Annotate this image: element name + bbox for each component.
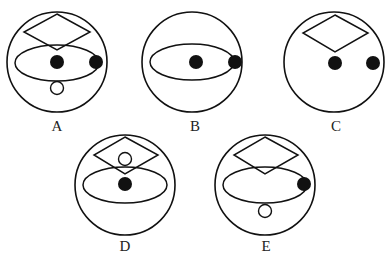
filled-dot-e-0 [297,177,311,191]
diamond-e [234,137,298,174]
hollow-dot-a-0 [51,82,64,95]
filled-dot-c-1 [366,56,380,70]
hollow-dot-e-0 [259,205,272,218]
filled-dot-a-0 [50,55,64,69]
ellipse-e [223,167,307,203]
label-e: E [261,238,270,255]
filled-dot-d-0 [118,177,132,191]
filled-dot-b-1 [228,55,242,69]
hollow-dot-d-0 [119,153,132,166]
filled-dot-a-1 [89,55,103,69]
label-d: D [120,238,131,255]
filled-dot-b-0 [189,55,203,69]
diamond-c [303,15,368,52]
filled-dot-c-0 [328,56,342,70]
figures-canvas [0,0,388,270]
label-c: C [331,118,341,135]
label-a: A [52,118,63,135]
label-b: B [190,118,200,135]
